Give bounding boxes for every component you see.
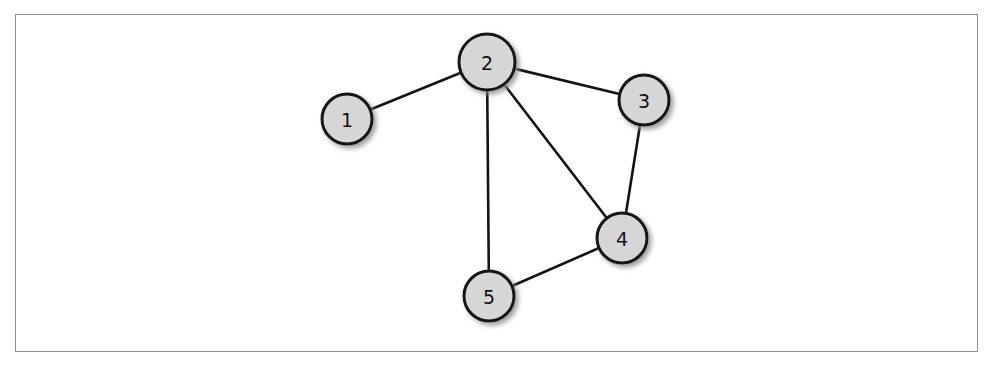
graph-node-label-4: 4: [616, 228, 628, 250]
graph-node-3[interactable]: 3: [619, 75, 669, 125]
graph-node-1[interactable]: 1: [322, 94, 372, 144]
graph-node-5[interactable]: 5: [464, 271, 514, 321]
graph-diagram: 12345: [0, 0, 992, 367]
graph-node-label-3: 3: [638, 90, 650, 112]
graph-edge-2-4: [502, 82, 608, 221]
graph-edge-4-5: [509, 247, 602, 287]
graph-node-layer: 12345: [322, 34, 669, 321]
graph-edge-2-3: [511, 68, 622, 95]
graph-node-label-1: 1: [341, 109, 353, 131]
figure-root: 12345: [0, 0, 992, 367]
graph-edge-3-4: [625, 122, 640, 217]
graph-node-label-2: 2: [481, 52, 493, 74]
graph-node-label-5: 5: [483, 286, 495, 308]
graph-node-2[interactable]: 2: [459, 34, 515, 90]
graph-edge-1-2: [367, 71, 463, 110]
graph-edge-2-5: [487, 87, 489, 274]
graph-edge-layer: [367, 68, 640, 287]
graph-node-4[interactable]: 4: [597, 213, 647, 263]
